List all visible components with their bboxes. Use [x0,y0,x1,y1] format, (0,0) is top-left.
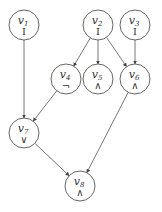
edge-v4-v7 [33,91,57,121]
node-operator: ∧ [131,80,138,91]
edge-v6-v8 [87,92,128,172]
edge-v7-v8 [35,143,69,175]
node-operator: ∧ [94,80,101,91]
node-operator: ¬ [62,80,70,91]
node-v7: v7∨ [9,118,39,148]
edge-v2-v6 [106,37,126,66]
node-operator: I [22,26,26,37]
node-v1: v1I [9,10,39,40]
node-v8: v8∧ [65,171,95,201]
node-v2: v2I [83,10,113,40]
node-v6: v6∧ [120,64,150,94]
edges-layer [24,37,135,175]
circuit-graph: v1Iv2Iv3Iv4¬v5∧v6∧v7∨v8∧ [0,0,162,212]
node-v4: v4¬ [51,64,81,94]
nodes-layer: v1Iv2Iv3Iv4¬v5∧v6∧v7∨v8∧ [9,10,150,201]
node-operator: ∧ [76,187,83,198]
node-operator: I [133,26,137,37]
node-operator: I [96,26,100,37]
edge-v2-v4 [74,38,91,66]
node-v5: v5∧ [83,64,113,94]
node-operator: ∨ [20,134,27,145]
node-v3: v3I [120,10,150,40]
